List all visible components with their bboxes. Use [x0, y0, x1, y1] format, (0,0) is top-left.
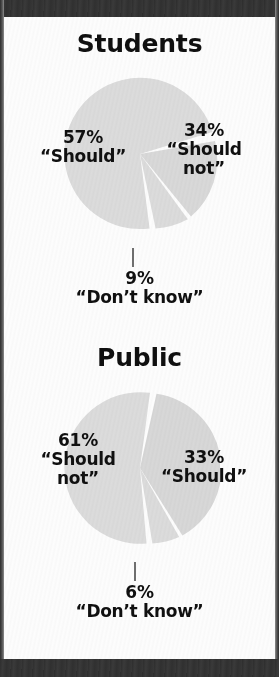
callout-percent-students: 9%: [4, 269, 275, 288]
scan-edge-right: [275, 0, 279, 677]
chart-public: Public 61% “Should not” 33% “Should” 6% …: [4, 333, 275, 660]
pie-slice-should-not: [64, 392, 150, 544]
callout-name-public: “Don’t know”: [4, 602, 275, 622]
callout-name-students: “Don’t know”: [4, 288, 275, 308]
leader-line-public: [134, 562, 136, 581]
scan-band-bottom: [0, 659, 279, 677]
pie-chart-students: [60, 74, 220, 234]
paper-surface: Students 57% “Should” 34% “Should not” 9…: [4, 17, 275, 660]
pie-svg-public: [60, 388, 220, 548]
pie-chart-public: [60, 388, 220, 548]
callout-students: 9% “Don’t know”: [4, 269, 275, 307]
scan-band-top: [0, 0, 279, 18]
chart-title-public: Public: [4, 345, 275, 370]
chart-title-students: Students: [4, 31, 275, 56]
infographic-page: Students 57% “Should” 34% “Should not” 9…: [0, 0, 279, 677]
callout-public: 6% “Don’t know”: [4, 583, 275, 621]
scan-edge-left: [0, 0, 4, 677]
callout-percent-public: 6%: [4, 583, 275, 602]
leader-line-students: [132, 248, 134, 267]
pie-svg-students: [60, 74, 220, 234]
chart-students: Students 57% “Should” 34% “Should not” 9…: [4, 17, 275, 333]
